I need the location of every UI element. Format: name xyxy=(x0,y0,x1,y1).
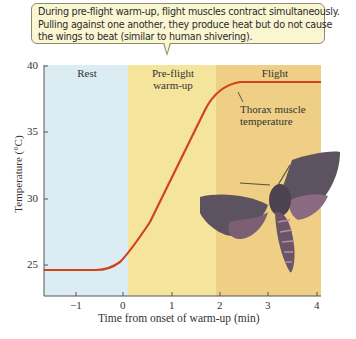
region-label-warmup-line2: warm-up xyxy=(140,79,206,91)
curve-annotation-line1: Thorax muscle xyxy=(240,103,330,115)
x-tick-2: 2 xyxy=(217,299,223,311)
warmup-region xyxy=(128,65,216,296)
y-tick-30: 30 xyxy=(27,192,38,204)
region-label-warmup-line1: Pre-flight xyxy=(140,67,206,79)
x-axis-label: Time from onset of warm-up (min) xyxy=(98,312,260,324)
y-tick-40: 40 xyxy=(27,59,38,71)
y-tick-25: 25 xyxy=(27,258,38,270)
rest-region xyxy=(44,65,128,296)
x-tick-3: 3 xyxy=(265,299,271,311)
x-tick-0: 0 xyxy=(120,299,126,311)
curve-annotation-line2: temperature xyxy=(240,115,330,127)
x-tick-4: 4 xyxy=(314,299,320,311)
curve-annotation: Thorax muscle temperature xyxy=(240,103,330,127)
y-tick-35: 35 xyxy=(27,125,38,137)
region-label-flight: Flight xyxy=(250,67,300,79)
y-axis-label: Temperature (°C) xyxy=(12,124,24,224)
x-tick-neg1: −1 xyxy=(70,299,82,311)
x-tick-1: 1 xyxy=(169,299,175,311)
chart-plot xyxy=(0,0,356,339)
region-label-rest: Rest xyxy=(62,67,112,79)
region-label-warmup: Pre-flight warm-up xyxy=(140,67,206,91)
